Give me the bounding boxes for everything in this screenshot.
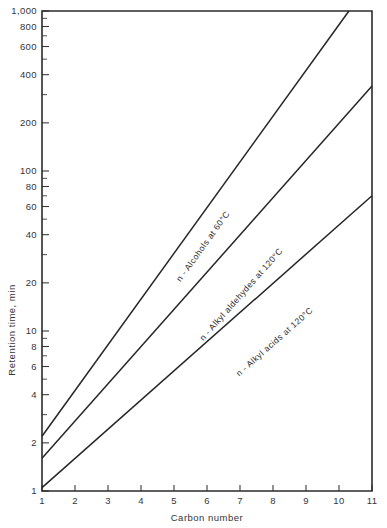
y-axis-tick-labels: 1246810204060801002004006008001,000 (11, 5, 37, 496)
y-tick-label: 40 (26, 229, 37, 240)
y-tick-label: 20 (26, 277, 37, 288)
x-tick-label: 9 (303, 495, 309, 506)
y-tick-label: 1 (31, 485, 37, 496)
x-tick-label: 11 (367, 495, 378, 506)
y-tick-label: 100 (20, 165, 37, 176)
x-tick-label: 7 (237, 495, 243, 506)
x-axis-major-ticks (42, 485, 372, 491)
y-tick-label: 80 (26, 181, 37, 192)
y-axis-title: Retention time, min (6, 284, 17, 375)
data-curves (42, 11, 372, 488)
x-tick-label: 3 (105, 495, 111, 506)
x-tick-label: 5 (171, 495, 177, 506)
x-tick-label: 4 (138, 495, 144, 506)
y-tick-label: 2 (31, 437, 37, 448)
x-tick-label: 2 (72, 495, 78, 506)
plot-frame (42, 11, 372, 491)
y-axis-major-ticks (42, 11, 49, 491)
x-axis-tick-labels: 1234567891011 (39, 495, 377, 506)
x-axis-title: Carbon number (171, 512, 244, 523)
y-tick-label: 6 (31, 361, 37, 372)
x-tick-label: 6 (204, 495, 210, 506)
curve-label-2: n - Alkyl acids at 120°C (234, 305, 315, 378)
y-tick-label: 1,000 (11, 5, 37, 16)
y-tick-label: 800 (20, 21, 37, 32)
y-tick-label: 10 (26, 325, 37, 336)
y-tick-label: 8 (31, 341, 37, 352)
x-tick-label: 10 (333, 495, 344, 506)
y-tick-label: 200 (20, 117, 37, 128)
curve-series-1 (42, 86, 372, 458)
y-tick-label: 4 (31, 389, 37, 400)
chart-canvas: 1246810204060801002004006008001,000 1234… (0, 0, 387, 528)
curve-label-1: n - Alkyl aldehydes at 120°C (197, 246, 284, 343)
y-tick-label: 600 (20, 41, 37, 52)
y-tick-label: 60 (26, 201, 37, 212)
curve-series-0 (42, 11, 349, 436)
curve-label-0: n - Alcohols at 60°C (174, 209, 232, 283)
retention-time-chart-figure: 1246810204060801002004006008001,000 1234… (0, 0, 387, 528)
x-tick-label: 1 (39, 495, 45, 506)
y-tick-label: 400 (20, 69, 37, 80)
x-tick-label: 8 (270, 495, 276, 506)
